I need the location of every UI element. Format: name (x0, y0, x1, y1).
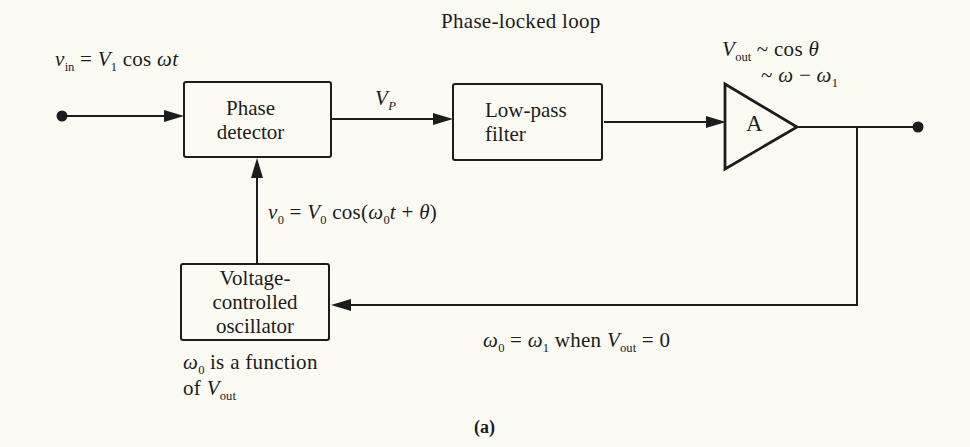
figure-caption: (a) (474, 417, 495, 438)
output-relation-line2: ~ ω − ω1 (761, 62, 838, 88)
lpf-to-amp-arrowhead-icon (706, 116, 726, 128)
vco-output-signal-label: v0 = V0 cos(ω0t + θ) (268, 199, 437, 225)
vco-box: Voltage- controlled oscillator (180, 263, 330, 341)
output-relation-line1: Vout ~ cos θ (722, 36, 838, 62)
output-node-dot (913, 122, 924, 133)
vco-label-line3: oscillator (216, 314, 294, 338)
low-pass-filter-label-line2: filter (485, 122, 526, 146)
vco-to-pd-arrowhead-icon (251, 158, 263, 178)
amplifier-gain-label: A (746, 111, 763, 137)
lock-condition-label: ω0 = ω1 when Vout = 0 (483, 327, 670, 353)
input-signal-label: vin = V1 cos ωt (55, 46, 178, 72)
feedback-arrowhead-icon (331, 299, 351, 311)
diagram-title: Phase-locked loop (441, 9, 601, 34)
vp-signal-label: VP (375, 85, 396, 111)
phase-detector-label-line1: Phase (226, 96, 275, 120)
vco-note-label: ω0 is a function of Vout (183, 349, 318, 401)
low-pass-filter-box: Low-pass filter (452, 83, 603, 161)
phase-detector-label-line2: detector (217, 120, 285, 144)
vco-label-line2: controlled (212, 290, 297, 314)
phase-detector-box: Phase detector (183, 81, 332, 158)
pll-block-diagram: Phase-locked loop vin = V1 cos ωt Phase … (0, 0, 970, 447)
pd-to-lpf-arrowhead-icon (433, 113, 453, 125)
vco-note-line1: ω0 is a function (183, 349, 318, 375)
input-node-dot (57, 111, 68, 122)
vco-label-line1: Voltage- (220, 266, 291, 290)
input-arrowhead-icon (164, 110, 184, 122)
output-relation-label: Vout ~ cos θ ~ ω − ω1 (722, 36, 838, 88)
low-pass-filter-label-line1: Low-pass (485, 98, 567, 122)
vco-note-line2: of Vout (183, 375, 318, 401)
